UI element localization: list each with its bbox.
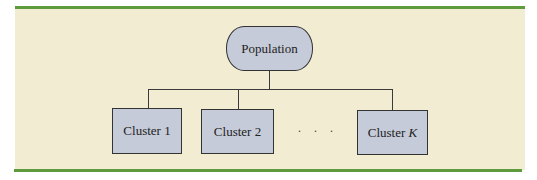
cluster-k-variable: K	[409, 125, 418, 140]
top-accent-bar	[15, 6, 525, 9]
cluster-1-drop-line	[148, 89, 149, 108]
ellipsis: . . .	[298, 121, 338, 136]
population-label: Population	[241, 41, 297, 57]
horizontal-connector-line	[148, 89, 393, 90]
root-stem-line	[269, 70, 270, 89]
cluster-2-node: Cluster 2	[201, 109, 274, 154]
cluster-k-label: Cluster K	[368, 125, 417, 141]
cluster-1-label: Cluster 1	[123, 123, 170, 139]
cluster-2-drop-line	[238, 89, 239, 109]
population-node: Population	[226, 26, 313, 71]
cluster-k-node: Cluster K	[357, 110, 428, 155]
cluster-2-label: Cluster 2	[214, 124, 261, 140]
bottom-accent-bar	[14, 169, 522, 172]
cluster-1-node: Cluster 1	[112, 108, 182, 154]
cluster-k-drop-line	[392, 89, 393, 110]
cluster-k-label-text: Cluster	[368, 125, 409, 140]
